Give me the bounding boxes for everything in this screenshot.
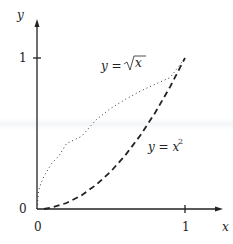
square-curve	[44, 58, 185, 209]
y-tick-label-1: 1	[19, 51, 27, 65]
y-axis-label: y	[16, 8, 24, 22]
sqrt-curve	[37, 58, 185, 209]
sqrt-annotation: y = x	[100, 56, 146, 73]
svg-text:y = x: y = x	[147, 140, 179, 154]
y-axis-arrow-icon	[35, 19, 40, 27]
x-tick-label-1: 1	[182, 220, 190, 234]
x-axis-arrow-icon	[215, 207, 223, 212]
function-plot: y 1 0 0 1 x y = x y = x 2	[0, 0, 233, 244]
square-annotation: y = x 2	[147, 137, 183, 154]
svg-text:y =: y =	[100, 59, 122, 73]
svg-text:2: 2	[178, 137, 183, 146]
x-axis-label: x	[222, 220, 229, 234]
y-tick-label-0: 0	[19, 202, 27, 216]
svg-text:x: x	[135, 56, 142, 70]
x-tick-label-0: 0	[34, 220, 42, 234]
